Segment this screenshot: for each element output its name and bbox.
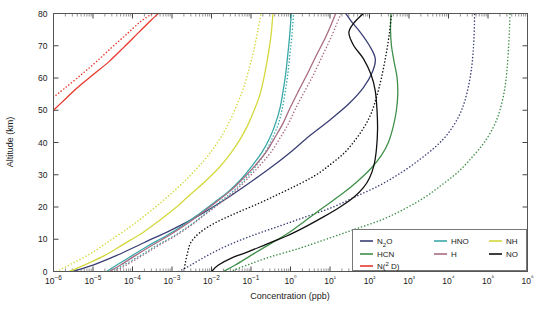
y-tick-label: 30 [38,170,48,180]
legend-label-N(²D): N(2 D) [377,261,400,271]
y-tick-label: 10 [38,234,48,244]
y-tick-label: 0 [43,267,48,277]
y-tick-label: 60 [38,73,48,83]
y-tick-label: 50 [38,105,48,115]
y-tick-label: 80 [38,9,48,19]
y-axis-tick-labels: 01020304050607080 [38,9,48,277]
legend-label-HCN: HCN [377,250,395,259]
legend-label-NH: NH [506,237,518,246]
y-tick-label: 40 [38,138,48,148]
y-tick-label: 20 [38,202,48,212]
legend-label-NO: NO [506,250,518,259]
legend-label-HNO: HNO [451,237,469,246]
chart-legend: N2OHCNN(2 D)HNOHNHNO [353,230,527,272]
y-axis-title: Altitude (km) [5,117,15,168]
chart-figure: 10−610−510−410−310−210−110⁰10¹10²10³10⁴1… [0,0,542,316]
legend-label-H: H [451,250,457,259]
y-tick-label: 70 [38,41,48,51]
atmospheric-concentration-chart: 10−610−510−410−310−210−110⁰10¹10²10³10⁴1… [0,0,542,316]
x-axis-title: Concentration (ppb) [250,291,330,301]
